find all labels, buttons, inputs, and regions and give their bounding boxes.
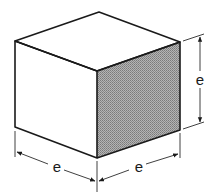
cube-left-face xyxy=(15,41,97,158)
dimension-line-left-a xyxy=(17,152,48,164)
dimension-label-right: e xyxy=(135,158,143,175)
dimension-label-height: e xyxy=(196,71,204,88)
dimension-line-right-b xyxy=(146,154,178,164)
dimension-line-right-a xyxy=(99,170,129,181)
extension-line-top-right xyxy=(183,34,204,41)
dimension-label-left: e xyxy=(53,158,61,175)
cube-top-inner-edge xyxy=(15,41,97,71)
dimension-line-left-b xyxy=(64,170,95,181)
extension-line-bottom-right xyxy=(183,122,204,129)
cube-right-face xyxy=(97,42,180,158)
cube-diagram: e e e xyxy=(0,0,215,194)
